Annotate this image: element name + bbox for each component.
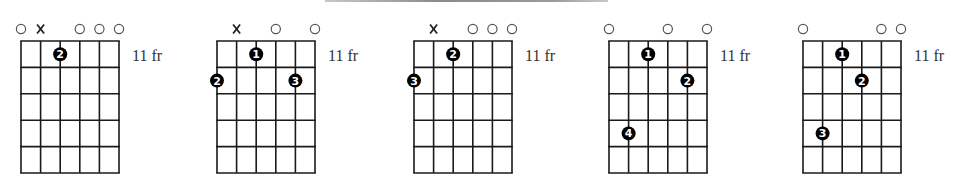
- muted-string-icon: [430, 25, 437, 34]
- finger-dot-icon: 3: [288, 74, 302, 88]
- chord-diagram-5: 312 11 fr: [0, 0, 190, 179]
- finger-dot-icon: 3: [407, 74, 421, 88]
- chord-grid-5: 312: [0, 0, 190, 179]
- svg-text:2: 2: [858, 75, 866, 88]
- open-string-icon: [507, 24, 516, 33]
- open-string-icon: [896, 24, 905, 33]
- svg-text:1: 1: [838, 48, 846, 61]
- svg-text:4: 4: [625, 127, 633, 140]
- open-string-icon: [488, 24, 497, 33]
- fret-position-label-2: 11 fr: [328, 48, 358, 64]
- finger-dot-icon: 2: [680, 74, 694, 88]
- svg-text:3: 3: [292, 75, 300, 88]
- top-divider-rule: [325, 0, 608, 2]
- open-string-icon: [702, 24, 711, 33]
- fret-position-label-4: 11 fr: [720, 48, 750, 64]
- muted-string-icon: [233, 25, 240, 34]
- finger-dot-icon: 4: [622, 126, 636, 140]
- finger-dot-icon: 2: [210, 74, 224, 88]
- finger-dot-icon: 3: [816, 126, 830, 140]
- svg-text:2: 2: [213, 75, 221, 88]
- svg-text:1: 1: [252, 48, 260, 61]
- finger-dot-icon: 1: [641, 47, 655, 61]
- svg-text:2: 2: [449, 48, 457, 61]
- finger-dot-icon: 2: [855, 74, 869, 88]
- open-string-icon: [271, 24, 280, 33]
- svg-text:1: 1: [644, 48, 652, 61]
- svg-text:2: 2: [684, 75, 692, 88]
- svg-text:3: 3: [410, 75, 418, 88]
- finger-dot-icon: 2: [446, 47, 460, 61]
- open-string-icon: [663, 24, 672, 33]
- finger-dot-icon: 1: [835, 47, 849, 61]
- open-string-icon: [798, 24, 807, 33]
- open-string-icon: [468, 24, 477, 33]
- open-string-icon: [604, 24, 613, 33]
- open-string-icon: [310, 24, 319, 33]
- fret-position-label-3: 11 fr: [525, 48, 555, 64]
- finger-dot-icon: 1: [249, 47, 263, 61]
- open-string-icon: [877, 24, 886, 33]
- svg-text:3: 3: [819, 127, 827, 140]
- fret-position-label-5: 11 fr: [914, 48, 944, 64]
